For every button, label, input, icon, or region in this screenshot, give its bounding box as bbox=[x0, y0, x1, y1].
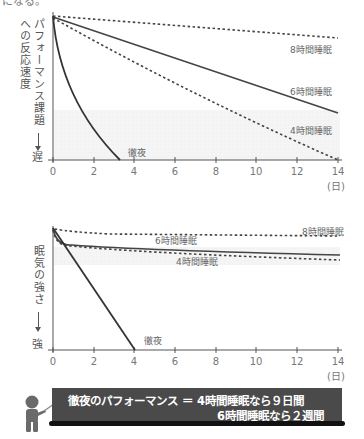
x-tick: 0 bbox=[50, 166, 56, 177]
summary-banner: 徹夜のパフォーマンス ＝ 4時間睡眠なら９日間 6時間睡眠なら２週間 bbox=[52, 388, 342, 422]
chart2-ylabel: 眠気の強さ bbox=[32, 245, 45, 305]
x-unit: (日) bbox=[327, 368, 345, 383]
chart1-ylabel-line2: への反応速度 bbox=[18, 18, 31, 90]
line-8h bbox=[53, 16, 338, 38]
down-arrow-icon bbox=[38, 133, 39, 147]
chart2-label-allnight: 徹夜 bbox=[144, 334, 162, 347]
x-tick: 4 bbox=[131, 166, 137, 177]
charts-canvas bbox=[0, 0, 364, 439]
chart1-label-allnight: 徹夜 bbox=[128, 146, 146, 159]
x-tick: 4 bbox=[131, 356, 137, 367]
banner-shadow bbox=[49, 421, 345, 426]
line-8h bbox=[55, 229, 340, 236]
x-tick: 12 bbox=[291, 166, 304, 177]
x-tick: 0 bbox=[50, 356, 56, 367]
x-tick: 12 bbox=[291, 356, 304, 367]
down-arrow-icon bbox=[38, 312, 39, 328]
chart1-label-6h: 6時間睡眠 bbox=[290, 85, 332, 98]
chart1-ylabel-line1: パフォーマンス課題 bbox=[32, 18, 45, 126]
chart2-label-4h: 4時間睡眠 bbox=[176, 255, 218, 268]
chart2-label-6h: 6時間睡眠 bbox=[155, 234, 197, 247]
x-tick: 8 bbox=[213, 166, 219, 177]
x-tick: 10 bbox=[250, 356, 263, 367]
line-6h bbox=[53, 17, 338, 113]
x-tick: 8 bbox=[213, 356, 219, 367]
x-unit: (日) bbox=[327, 178, 345, 193]
x-tick: 14 bbox=[332, 356, 345, 367]
x-tick: 2 bbox=[91, 166, 97, 177]
chart1-label-4h: 4時間睡眠 bbox=[290, 124, 332, 137]
x-tick: 14 bbox=[332, 166, 345, 177]
chart1-label-8h: 8時間睡眠 bbox=[290, 43, 332, 56]
chart1-direction: 遅 bbox=[32, 148, 43, 164]
x-tick: 6 bbox=[172, 356, 178, 367]
banner-line1: 徹夜のパフォーマンス ＝ 4時間睡眠なら９日間 bbox=[68, 392, 304, 408]
chart2-label-8h: 8時間睡眠 bbox=[302, 225, 344, 238]
x-tick: 2 bbox=[91, 356, 97, 367]
x-tick: 10 bbox=[250, 166, 263, 177]
chart2-direction: 強 bbox=[32, 335, 43, 351]
x-tick: 6 bbox=[172, 166, 178, 177]
